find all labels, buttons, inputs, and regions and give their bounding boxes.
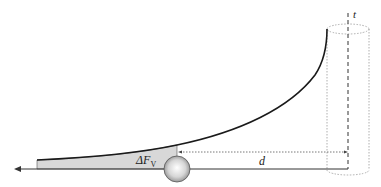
force-curve <box>37 29 327 160</box>
sphere <box>164 156 190 182</box>
arrowhead-d-right-icon <box>344 151 348 154</box>
force-label-sub: V <box>150 160 156 169</box>
force-label-main: ΔF <box>135 153 151 167</box>
arrowhead-left-icon <box>14 166 21 172</box>
distance-d-label: d <box>259 154 266 168</box>
axis-t-label: t <box>353 8 357 20</box>
arrowhead-d-left-icon <box>178 151 182 154</box>
force-decay-diagram: t d ΔFV <box>0 0 381 187</box>
